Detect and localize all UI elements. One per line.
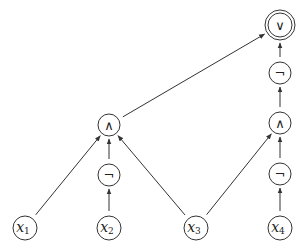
node-andL: ∧	[98, 114, 120, 136]
node-x1: x1	[13, 216, 37, 240]
node-x3: x3	[184, 216, 208, 240]
variable-subscript: 3	[195, 226, 201, 236]
edges-layer	[36, 34, 280, 215]
node-andR: ∧	[269, 112, 291, 134]
not-operator-label: ¬	[104, 168, 115, 183]
node-notR1: ¬	[269, 62, 291, 84]
and-operator-label: ∧	[104, 118, 114, 133]
node-x4: x4	[268, 216, 292, 240]
variable-subscript: 2	[108, 226, 114, 236]
variable-subscript: 1	[24, 226, 30, 236]
not-operator-label: ¬	[275, 66, 286, 81]
node-x2: x2	[97, 216, 121, 240]
node-notL: ¬	[98, 164, 120, 186]
variable-subscript: 4	[279, 226, 285, 236]
edge-x1-to-andL	[36, 136, 101, 215]
boolean-circuit-diagram: ∨¬∧¬∧¬x1x2x3x4	[0, 0, 307, 251]
edge-x3-to-andL	[118, 136, 185, 215]
not-operator-label: ¬	[275, 167, 286, 182]
edge-andL-to-out	[123, 34, 265, 117]
node-notR2: ¬	[269, 163, 291, 185]
nodes-layer: ∨¬∧¬∧¬x1x2x3x4	[13, 10, 295, 240]
node-out: ∨	[265, 10, 295, 40]
and-operator-label: ∧	[275, 116, 285, 131]
edge-x3-to-andR	[207, 134, 272, 215]
or-operator-label: ∨	[275, 18, 285, 33]
